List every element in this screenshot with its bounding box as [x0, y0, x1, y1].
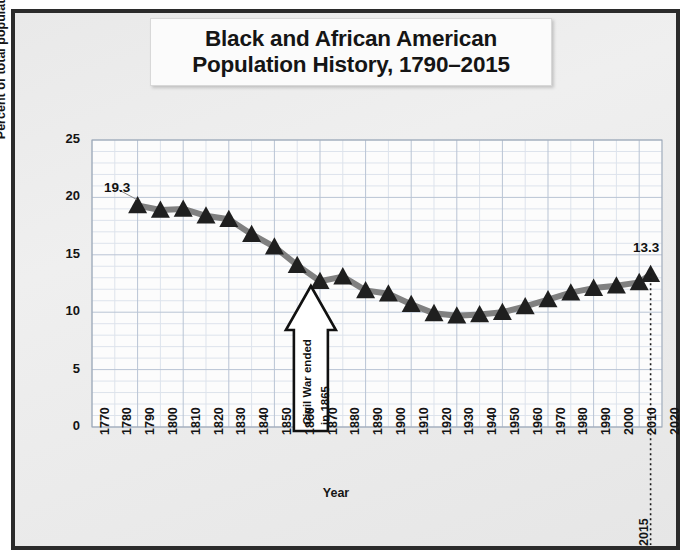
x-tick-1810: 1810: [189, 407, 203, 435]
x-tick-1820: 1820: [212, 407, 226, 435]
y-tick-15: 15: [40, 246, 80, 261]
x-tick-2000: 2000: [622, 407, 636, 435]
x-tick-1840: 1840: [257, 407, 271, 435]
x-axis-label: Year: [236, 486, 436, 500]
x-tick-1890: 1890: [371, 407, 385, 435]
x-tick-1880: 1880: [348, 407, 362, 435]
x-tick-1990: 1990: [599, 407, 613, 435]
x-tick-1930: 1930: [462, 407, 476, 435]
y-tick-5: 5: [40, 361, 80, 376]
y-tick-0: 0: [40, 418, 80, 433]
y-axis-label: Percent of total population: [0, 0, 8, 180]
x-tick-1910: 1910: [417, 407, 431, 435]
x-tick-1770: 1770: [98, 407, 112, 435]
y-tick-10: 10: [40, 303, 80, 318]
x-tick-1980: 1980: [576, 407, 590, 435]
x-tick-1780: 1780: [120, 407, 134, 435]
x-tick-1920: 1920: [440, 407, 454, 435]
line-chart-svg: [0, 0, 691, 559]
civil-war-callout-line-1: Civil War ended: [300, 339, 314, 425]
x-tick-1800: 1800: [166, 407, 180, 435]
x-tick-1970: 1970: [554, 407, 568, 435]
x-tick-2010: 2010: [645, 407, 659, 435]
x-tick-1850: 1850: [280, 407, 294, 435]
x-tick-1900: 1900: [394, 407, 408, 435]
last-year-label: 2015: [637, 518, 651, 546]
x-tick-1960: 1960: [531, 407, 545, 435]
first-point-value-label: 19.3: [104, 180, 130, 195]
last-point-value-label: 13.3: [633, 240, 659, 255]
y-tick-20: 20: [40, 188, 80, 203]
y-tick-25: 25: [40, 131, 80, 146]
x-tick-1790: 1790: [143, 407, 157, 435]
x-tick-1940: 1940: [485, 407, 499, 435]
civil-war-callout-line-2: in 1865: [318, 386, 332, 425]
plot-background: [92, 140, 662, 427]
x-tick-1830: 1830: [234, 407, 248, 435]
plot-area-wrapper: [0, 0, 691, 559]
x-tick-1950: 1950: [508, 407, 522, 435]
x-tick-2020: 2020: [668, 407, 682, 435]
